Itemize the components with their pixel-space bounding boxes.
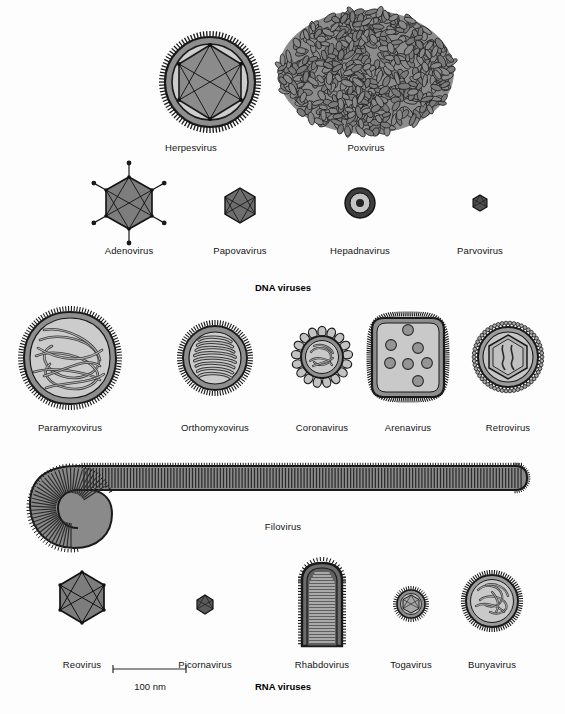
virus-label-poxvirus: Poxvirus	[347, 142, 384, 153]
virus-label-adenovirus: Adenovirus	[105, 245, 154, 256]
virus-label-paramyxovirus: Paramyxovirus	[38, 422, 102, 433]
virus-label-retrovirus: Retrovirus	[486, 422, 530, 433]
virus-label-togavirus: Togavirus	[390, 659, 432, 670]
virus-label-reovirus: Reovirus	[63, 659, 101, 670]
virus-label-papovavirus: Papovavirus	[213, 245, 266, 256]
virus-rhabdovirus	[298, 557, 346, 646]
virus-label-filovirus: Filovirus	[265, 521, 301, 532]
virus-label-coronavirus: Coronavirus	[296, 422, 348, 433]
virus-herpesvirus	[159, 31, 261, 133]
virus-label-rhabdovirus: Rhabdovirus	[295, 659, 349, 670]
virus-label-bunyavirus: Bunyavirus	[468, 659, 516, 670]
virus-picornavirus	[197, 595, 213, 614]
virus-parvovirus	[473, 195, 487, 211]
virus-morphology-figure	[0, 0, 565, 714]
rna-caption: RNA viruses	[255, 681, 311, 692]
virus-label-orthomyxovirus: Orthomyxovirus	[181, 422, 249, 433]
virus-retrovirus	[472, 321, 544, 393]
dna-caption: DNA viruses	[255, 282, 311, 293]
virus-label-parvovirus: Parvovirus	[457, 245, 503, 256]
virus-label-hepadnavirus: Hepadnavirus	[330, 245, 390, 256]
virus-label-herpesvirus: Herpesvirus	[165, 142, 217, 153]
virus-label-arenavirus: Arenavirus	[385, 422, 431, 433]
virus-label-picornavirus: Picornavirus	[178, 659, 231, 670]
scale-bar-label: 100 nm	[134, 681, 166, 692]
virus-arenavirus	[367, 312, 450, 403]
virus-hepadnavirus	[345, 188, 375, 218]
